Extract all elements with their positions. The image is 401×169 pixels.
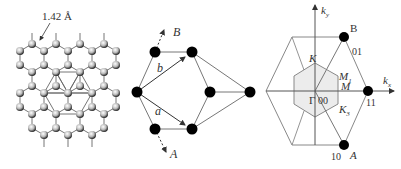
- point-A: [339, 140, 349, 150]
- carbon-atom: [100, 68, 108, 76]
- carbon-atom: [64, 89, 72, 97]
- carbon-atom: [76, 124, 84, 132]
- vector-a-label: a: [155, 104, 161, 118]
- carbon-atom: [88, 103, 96, 111]
- graph-node: [150, 47, 161, 58]
- carbon-atom: [76, 68, 84, 76]
- kx-axis-label: kx: [383, 74, 392, 89]
- point-M-label: M: [340, 80, 351, 92]
- carbon-atom: [16, 103, 24, 111]
- figure: 1.42 Å B b a A: [0, 0, 401, 169]
- vector-a-arrow-icon: [137, 92, 185, 125]
- graphene-lattice-panel: [16, 33, 120, 147]
- carbon-atom: [52, 124, 60, 132]
- carbon-atom: [16, 61, 24, 69]
- carbon-atom: [40, 47, 48, 55]
- carbon-atom: [28, 110, 36, 118]
- carbon-atom: [16, 47, 24, 55]
- carbon-atom: [100, 82, 108, 90]
- point-10-label: 10: [331, 151, 341, 162]
- carbon-atom: [88, 61, 96, 69]
- point-K3-label: K3: [338, 103, 350, 118]
- point-01-label: 01: [352, 46, 362, 57]
- carbon-atom: [64, 61, 72, 69]
- carbon-atom: [100, 40, 108, 48]
- carbon-atom: [64, 103, 72, 111]
- carbon-atom: [28, 40, 36, 48]
- carbon-atom: [88, 47, 96, 55]
- origin-index-label: 00: [318, 95, 328, 106]
- direction-B-label: B: [173, 25, 181, 39]
- graph-node: [187, 124, 198, 135]
- vector-b-label: b: [157, 61, 163, 75]
- graph-node: [132, 87, 143, 98]
- carbon-atom: [16, 89, 24, 97]
- brillouin-zone-panel: [266, 5, 394, 150]
- carbon-atom: [88, 131, 96, 139]
- point-K-label: K: [308, 52, 317, 64]
- carbon-atom: [88, 89, 96, 97]
- carbon-atom: [64, 47, 72, 55]
- carbon-atom: [40, 103, 48, 111]
- point-B: [339, 32, 349, 42]
- graph-node: [205, 87, 216, 98]
- graph-node: [245, 87, 256, 98]
- gamma-label: Γ: [309, 94, 315, 106]
- carbon-atom: [40, 89, 48, 97]
- lattice-atoms: [16, 40, 120, 139]
- carbon-atom: [52, 82, 60, 90]
- carbon-atom: [76, 110, 84, 118]
- carbon-atom: [76, 40, 84, 48]
- carbon-atom: [28, 82, 36, 90]
- carbon-atom: [52, 68, 60, 76]
- point-A-label: A: [349, 149, 357, 161]
- carbon-atom: [64, 131, 72, 139]
- carbon-atom: [28, 124, 36, 132]
- carbon-atom: [28, 68, 36, 76]
- carbon-atom: [112, 47, 120, 55]
- graph-node: [187, 47, 198, 58]
- ky-axis-label: ky: [321, 4, 330, 19]
- carbon-atom: [112, 89, 120, 97]
- point-B-label: B: [350, 22, 357, 34]
- point-11: [363, 86, 373, 96]
- point-11-label: 11: [366, 97, 376, 108]
- graph-nodes: [132, 47, 256, 135]
- carbon-atom: [40, 61, 48, 69]
- bond-length-arrow-icon: [40, 23, 50, 40]
- carbon-atom: [52, 110, 60, 118]
- carbon-atom: [52, 40, 60, 48]
- carbon-atom: [112, 103, 120, 111]
- carbon-atom: [100, 110, 108, 118]
- carbon-atom: [100, 124, 108, 132]
- graph-node: [150, 124, 161, 135]
- carbon-atom: [40, 131, 48, 139]
- carbon-atom: [112, 61, 120, 69]
- carbon-atom: [76, 82, 84, 90]
- direction-A-label: A: [169, 147, 178, 161]
- bond-length-label: 1.42 Å: [42, 10, 72, 22]
